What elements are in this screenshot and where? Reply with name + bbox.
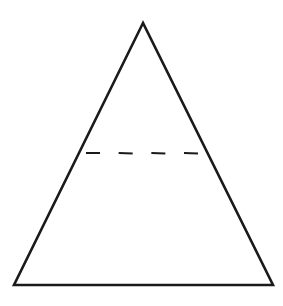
dashed-line — [86, 153, 198, 154]
triangle-diagram — [0, 0, 283, 306]
diagram-canvas — [0, 0, 283, 306]
dash-segment — [151, 153, 165, 154]
triangle-outline — [14, 23, 273, 285]
dash-segment — [119, 153, 133, 154]
dash-segment — [184, 153, 198, 154]
